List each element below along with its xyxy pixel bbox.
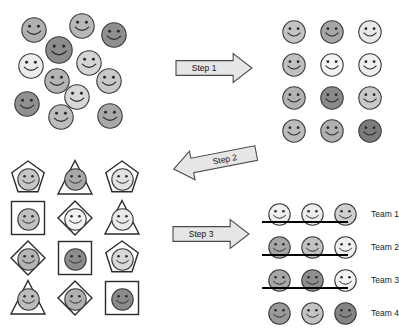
smiley-face-icon <box>280 117 308 145</box>
smiley-face-icon <box>266 267 293 294</box>
smiley-face-icon <box>266 201 293 228</box>
arrow-left-icon: Step 2 <box>170 137 261 185</box>
smiley-face <box>15 246 42 277</box>
team-label-3: Team 3 <box>371 275 399 285</box>
smiley-face-icon <box>109 166 136 193</box>
smiley-face-icon <box>280 84 308 112</box>
smiley-face <box>62 246 89 277</box>
arrow-right-icon: Step 3 <box>172 218 250 250</box>
team-3-face-1 <box>266 267 293 298</box>
smiley-face-icon <box>356 84 384 112</box>
smiley-face-icon <box>318 18 346 46</box>
smiley-face-icon <box>332 234 359 261</box>
team-label-1: Team 1 <box>371 209 399 219</box>
sorted-face-r2-c2 <box>318 51 346 83</box>
step-2-arrow: Step 2 <box>170 137 261 185</box>
smiley-face-icon <box>280 18 308 46</box>
team-2-face-1 <box>266 234 293 265</box>
smiley-face-icon <box>62 286 89 313</box>
crowd-face-12 <box>95 101 125 135</box>
step-3-arrow-label: Step 3 <box>189 229 214 239</box>
smiley-face <box>62 206 89 237</box>
smiley-face <box>15 206 42 237</box>
team-3-face-3 <box>332 267 359 298</box>
shaped-face-pentagon-r1-c1 <box>9 159 47 197</box>
crowd-face-10 <box>12 89 42 123</box>
smiley-face-icon <box>280 51 308 79</box>
smiley-face-icon <box>62 166 89 193</box>
team-2-face-3 <box>332 234 359 265</box>
team-4-face-3 <box>332 300 359 331</box>
sorted-face-r4-c1 <box>280 117 308 149</box>
team-1-face-1 <box>266 201 293 232</box>
sorted-face-r3-c2 <box>318 84 346 116</box>
smiley-face <box>15 286 42 317</box>
smiley-face <box>109 246 136 277</box>
smiley-face-icon <box>266 300 293 327</box>
smiley-face <box>15 166 42 197</box>
crowd-face-8 <box>94 66 124 100</box>
arrow-right-icon: Step 1 <box>175 52 253 84</box>
smiley-face-icon <box>299 234 326 261</box>
crowd-face-11 <box>46 102 76 136</box>
team-1-face-2 <box>299 201 326 232</box>
smiley-face-icon <box>46 102 76 132</box>
smiley-face <box>62 166 89 197</box>
step-1-arrow-label: Step 1 <box>192 63 217 73</box>
team-1-face-3 <box>332 201 359 232</box>
sorted-face-r3-c3 <box>356 84 384 116</box>
team-separator-2 <box>262 254 348 256</box>
smiley-face-icon <box>109 206 136 233</box>
sorted-face-r1-c3 <box>356 18 384 50</box>
sorted-face-r2-c1 <box>280 51 308 83</box>
shaped-face-diamond-r4-c2 <box>56 279 94 317</box>
sorted-face-r1-c1 <box>280 18 308 50</box>
team-separator-1 <box>262 221 348 223</box>
smiley-face-icon <box>332 300 359 327</box>
team-label-4: Team 4 <box>371 308 399 318</box>
smiley-face <box>62 286 89 317</box>
smiley-face-icon <box>356 51 384 79</box>
shaped-face-triangle-r4-c1 <box>9 279 47 317</box>
sorted-face-r2-c3 <box>356 51 384 83</box>
shaped-face-triangle-r1-c2 <box>56 159 94 197</box>
smiley-face <box>109 286 136 317</box>
step-3-arrow: Step 3 <box>172 218 250 250</box>
shaped-face-square-r3-c2 <box>56 239 94 277</box>
smiley-face <box>109 206 136 237</box>
smiley-face-icon <box>43 34 75 66</box>
team-4-face-2 <box>299 300 326 331</box>
team-label-2: Team 2 <box>371 242 399 252</box>
smiley-face-icon <box>318 51 346 79</box>
shaped-face-square-r4-c3 <box>103 279 141 317</box>
shaped-face-diamond-r3-c1 <box>9 239 47 277</box>
smiley-face-icon <box>15 286 42 313</box>
sorted-face-r4-c3 <box>356 117 384 149</box>
smiley-face-icon <box>15 246 42 273</box>
smiley-face-icon <box>356 18 384 46</box>
smiley-face-icon <box>266 234 293 261</box>
team-2-face-2 <box>299 234 326 265</box>
smiley-face-icon <box>109 246 136 273</box>
smiley-face-icon <box>15 166 42 193</box>
team-separator-3 <box>262 287 348 289</box>
smiley-face <box>109 166 136 197</box>
smiley-face-icon <box>299 300 326 327</box>
sorted-face-r3-c1 <box>280 84 308 116</box>
smiley-face-icon <box>12 89 42 119</box>
smiley-face-icon <box>95 101 125 131</box>
shaped-face-pentagon-r3-c3 <box>103 239 141 277</box>
shaped-face-pentagon-r1-c3 <box>103 159 141 197</box>
smiley-face-icon <box>94 66 124 96</box>
smiley-face-icon <box>62 246 89 273</box>
shaped-face-diamond-r2-c2 <box>56 199 94 237</box>
smiley-face-icon <box>356 117 384 145</box>
smiley-face-icon <box>299 267 326 294</box>
shaped-face-square-r2-c1 <box>9 199 47 237</box>
smiley-face-icon <box>62 206 89 233</box>
team-3-face-2 <box>299 267 326 298</box>
sorted-face-r1-c2 <box>318 18 346 50</box>
smiley-face-icon <box>15 206 42 233</box>
team-4-face-1 <box>266 300 293 331</box>
